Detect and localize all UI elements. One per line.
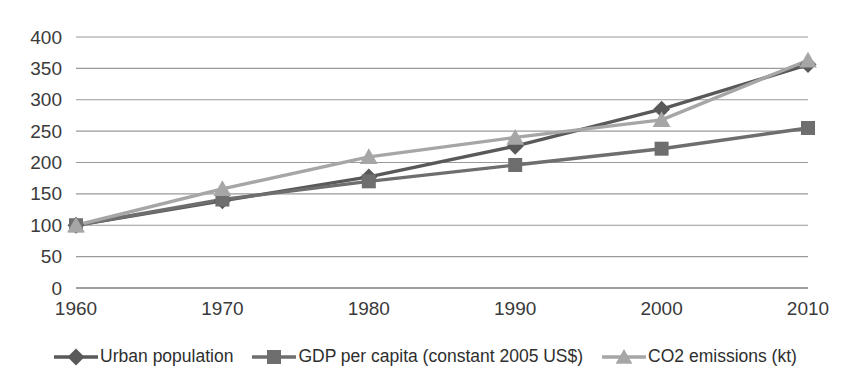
chart-canvas: 400350300250200150100500 196019701980199…	[0, 0, 850, 330]
legend-item: CO2 emissions (kt)	[601, 348, 797, 366]
y-axis-tick-label: 100	[30, 215, 62, 236]
data-point-marker	[799, 52, 817, 68]
y-axis-tick-label: 0	[51, 278, 62, 299]
y-axis-tick-label: 200	[30, 152, 62, 173]
series-line	[76, 128, 808, 225]
diamond-marker	[53, 348, 99, 366]
y-axis-tick-label: 350	[30, 58, 62, 79]
triangle-marker	[601, 348, 647, 366]
data-point-marker	[801, 121, 815, 135]
series-lines	[76, 60, 808, 225]
y-axis-tick-label: 250	[30, 121, 62, 142]
x-axis-tick-label: 1960	[55, 298, 97, 319]
legend-item-label: GDP per capita (constant 2005 US$)	[298, 348, 583, 366]
x-axis-tick-label: 1970	[201, 298, 243, 319]
plot-area: 400350300250200150100500 196019701980199…	[0, 0, 850, 330]
x-axis-tick-label: 2010	[787, 298, 829, 319]
legend-item-label: Urban population	[100, 348, 233, 366]
legend-item: GDP per capita (constant 2005 US$)	[251, 348, 583, 366]
y-axis-tick-labels: 400350300250200150100500	[30, 27, 62, 299]
legend-item-label: CO2 emissions (kt)	[648, 348, 797, 366]
legend-marker-glyph	[68, 348, 85, 365]
x-axis-tick-label: 1990	[494, 298, 536, 319]
square-marker	[251, 348, 297, 366]
y-axis-tick-label: 50	[41, 246, 62, 267]
y-axis-tick-label: 400	[30, 27, 62, 48]
data-point-marker	[508, 158, 522, 172]
x-axis-tick-labels: 196019701980199020002010	[55, 298, 829, 319]
legend-marker-glyph	[267, 350, 281, 364]
y-axis-tick-label: 150	[30, 183, 62, 204]
data-point-marker	[362, 174, 376, 188]
x-axis-tick-label: 2000	[640, 298, 682, 319]
legend-item: Urban population	[53, 348, 233, 366]
x-axis-tick-label: 1980	[348, 298, 390, 319]
chart-legend: Urban populationGDP per capita (constant…	[0, 330, 850, 383]
line-chart: 400350300250200150100500 196019701980199…	[0, 0, 850, 383]
data-point-marker	[655, 142, 669, 156]
y-axis-tick-label: 300	[30, 89, 62, 110]
